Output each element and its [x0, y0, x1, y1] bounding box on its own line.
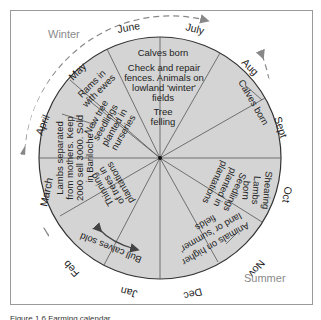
svg-text:felling: felling: [151, 116, 176, 127]
svg-text:in Bariloche: in Bariloche: [84, 133, 95, 183]
svg-text:Calves born: Calves born: [138, 47, 189, 58]
season-winter: Winter: [48, 28, 80, 40]
svg-text:fields: fields: [152, 92, 174, 103]
calendar-wheel: Winter Summer June July Aug Sept Oct Nov…: [0, 0, 321, 320]
figure-caption: Figure 1.6 Farming calendar: [10, 312, 111, 320]
center-pin: [158, 156, 162, 160]
